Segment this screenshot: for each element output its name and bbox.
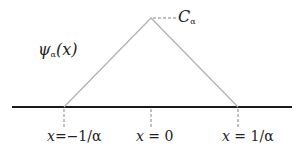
triangle-function-diagram: ψα(x) Cα x=−1/α x = 0 x = 1/α bbox=[0, 0, 301, 152]
alpha-subscript: α bbox=[190, 17, 195, 26]
tick-label-left: x=−1/α bbox=[47, 128, 101, 144]
tick-value: −1/α bbox=[67, 128, 102, 144]
tick-var: x bbox=[47, 128, 55, 144]
c-symbol: C bbox=[178, 7, 190, 26]
tick-var: x bbox=[222, 128, 230, 144]
triangle-curve bbox=[64, 18, 238, 107]
psi-symbol: ψ bbox=[38, 40, 51, 59]
peak-label: Cα bbox=[178, 7, 196, 26]
tick-label-right: x = 1/α bbox=[222, 128, 274, 144]
tick-eq: = bbox=[55, 128, 67, 144]
function-label: ψα(x) bbox=[38, 40, 77, 59]
tick-var: x bbox=[136, 128, 144, 144]
tick-eq: = bbox=[234, 128, 246, 144]
tick-label-center: x = 0 bbox=[136, 128, 173, 144]
tick-value: 0 bbox=[165, 128, 174, 144]
function-arg: (x) bbox=[56, 40, 78, 59]
tick-eq: = bbox=[148, 128, 160, 144]
tick-value: 1/α bbox=[251, 128, 274, 144]
